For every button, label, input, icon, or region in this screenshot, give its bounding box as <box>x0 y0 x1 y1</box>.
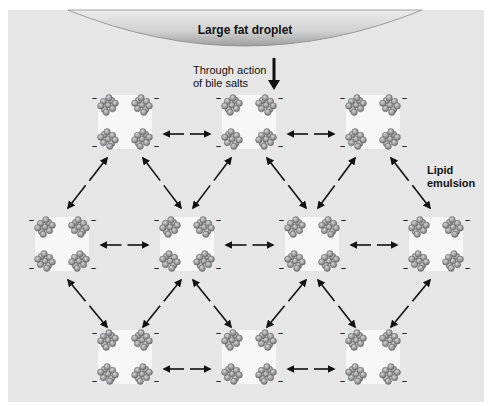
micelle: –––– <box>403 215 470 273</box>
arrow-half <box>193 280 210 301</box>
arrow-half <box>391 306 409 327</box>
arrow-half <box>193 185 210 208</box>
action-label-line1: Through action <box>193 64 266 77</box>
negative-charge: – <box>402 328 407 338</box>
down-arrow-icon <box>268 58 280 90</box>
arrow-half <box>68 185 86 208</box>
arrow-half <box>288 185 306 208</box>
arrow-half <box>214 158 231 181</box>
diagonal-double-arrow-icon <box>143 280 181 327</box>
arrow-half <box>338 306 355 327</box>
negative-charge: – <box>403 215 408 225</box>
negative-charge: – <box>278 328 283 338</box>
negative-charge: – <box>29 215 34 225</box>
arrow-half <box>338 158 355 181</box>
negative-charge: – <box>91 215 96 225</box>
negative-charge: – <box>154 141 159 151</box>
negative-charge: – <box>154 328 159 338</box>
negative-charge: – <box>154 263 159 273</box>
negative-charge: – <box>216 141 221 151</box>
droplet-label: Large fat droplet <box>0 24 490 37</box>
negative-charge: – <box>279 215 284 225</box>
arrow-half <box>143 158 160 181</box>
micelle: –––– <box>154 215 221 273</box>
diagonal-double-arrow-icon <box>267 280 306 327</box>
negative-charge: – <box>340 93 345 103</box>
negative-charge: – <box>465 263 470 273</box>
negative-charge: – <box>278 141 283 151</box>
diagonal-double-arrow-icon <box>193 158 231 208</box>
arrow-half <box>89 158 107 181</box>
arrow-half <box>412 280 430 301</box>
micelle: –––– <box>29 215 96 273</box>
arrow-half <box>267 306 285 327</box>
negative-charge: – <box>29 263 34 273</box>
negative-charge: – <box>278 93 283 103</box>
micelle: –––– <box>340 93 407 151</box>
emulsion-label-line1: Lipid <box>427 164 475 177</box>
negative-charge: – <box>216 328 221 338</box>
micelle: –––– <box>279 215 346 273</box>
diagonal-double-arrow-icon <box>391 158 430 208</box>
negative-charge: – <box>465 215 470 225</box>
micelles: –––––––––––––––––––––––––––––––––––––––– <box>29 93 470 386</box>
negative-charge: – <box>216 215 221 225</box>
arrow-half <box>288 280 306 301</box>
emulsion-diagram: –––––––––––––––––––––––––––––––––––––––– <box>0 0 490 406</box>
arrow-half <box>68 280 86 301</box>
diagonal-double-arrow-icon <box>391 280 430 327</box>
negative-charge: – <box>154 93 159 103</box>
diagonal-double-arrow-icon <box>318 158 355 208</box>
diagonal-double-arrow-icon <box>267 158 306 208</box>
arrow-half <box>164 185 181 208</box>
diagonal-double-arrow-icon <box>68 280 107 327</box>
diagonal-double-arrow-icon <box>143 158 181 208</box>
negative-charge: – <box>154 215 159 225</box>
negative-charge: – <box>402 141 407 151</box>
micelle: –––– <box>216 328 283 386</box>
arrow-half <box>391 158 409 181</box>
negative-charge: – <box>216 376 221 386</box>
arrow-half <box>164 280 181 301</box>
negative-charge: – <box>92 328 97 338</box>
arrow-half <box>214 306 231 327</box>
micelle: –––– <box>340 328 407 386</box>
negative-charge: – <box>91 263 96 273</box>
micelle: –––– <box>216 93 283 151</box>
diagonal-double-arrow-icon <box>318 280 355 327</box>
negative-charge: – <box>340 376 345 386</box>
negative-charge: – <box>154 376 159 386</box>
negative-charge: – <box>216 263 221 273</box>
negative-charge: – <box>341 215 346 225</box>
arrow-half <box>318 280 335 301</box>
negative-charge: – <box>278 376 283 386</box>
arrow-half <box>89 306 107 327</box>
negative-charge: – <box>341 263 346 273</box>
negative-charge: – <box>92 376 97 386</box>
negative-charge: – <box>340 328 345 338</box>
negative-charge: – <box>403 263 408 273</box>
diagonal-double-arrow-icon <box>193 280 231 327</box>
arrow-half <box>318 185 335 208</box>
micelle: –––– <box>92 93 159 151</box>
arrow-half <box>267 158 285 181</box>
bile-salt-action-label: Through action of bile salts <box>193 64 266 90</box>
negative-charge: – <box>92 141 97 151</box>
negative-charge: – <box>279 263 284 273</box>
emulsion-label-line2: emulsion <box>427 177 475 190</box>
action-label-line2: of bile salts <box>193 77 266 90</box>
arrow-half <box>143 306 160 327</box>
negative-charge: – <box>402 93 407 103</box>
lipid-emulsion-label: Lipid emulsion <box>427 164 475 190</box>
micelle: –––– <box>92 328 159 386</box>
negative-charge: – <box>92 93 97 103</box>
negative-charge: – <box>216 93 221 103</box>
negative-charge: – <box>402 376 407 386</box>
negative-charge: – <box>340 141 345 151</box>
diagonal-double-arrow-icon <box>68 158 107 208</box>
